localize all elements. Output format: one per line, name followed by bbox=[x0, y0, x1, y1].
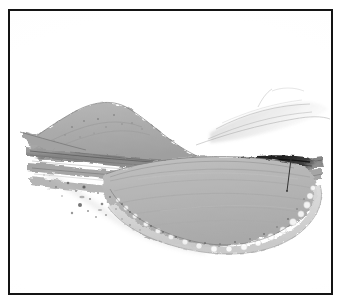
specimen-image bbox=[10, 11, 331, 293]
figure-frame bbox=[8, 9, 333, 295]
figure-root bbox=[0, 0, 342, 307]
